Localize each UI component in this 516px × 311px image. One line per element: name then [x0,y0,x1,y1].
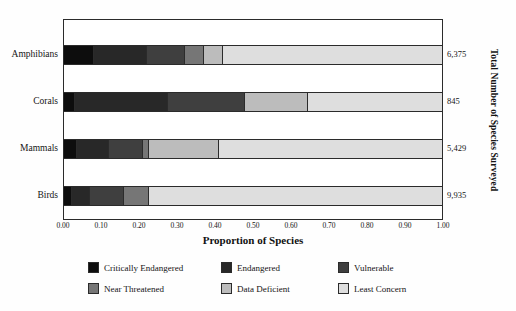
x-tick-label: 0.40 [208,221,221,231]
legend-item[interactable]: Near Threatened [88,283,221,294]
bar-segment[interactable] [72,187,91,205]
bar-segment[interactable] [185,46,204,64]
x-tick-label: 0.50 [246,221,259,231]
legend-label: Critically Endangered [104,263,183,273]
row-total-label: 845 [447,96,460,106]
legend-label: Least Concern [354,284,406,294]
legend-swatch-icon [221,262,232,273]
bar-segment[interactable] [109,140,143,158]
bar-segment[interactable] [75,93,168,111]
legend-swatch-icon [88,262,99,273]
legend-item[interactable]: Data Deficient [221,283,338,294]
x-tick-label: 0.10 [94,221,107,231]
bar-segment[interactable] [94,46,147,64]
plot-area [63,19,443,220]
row-total-label: 5,429 [447,143,466,153]
bar-segment[interactable] [124,187,149,205]
x-tick-label: 0.60 [284,221,297,231]
bar-segment[interactable] [223,46,442,64]
legend-swatch-icon [338,283,349,294]
chart-legend: Critically EndangeredEndangeredVulnerabl… [88,257,438,299]
x-tick-label: 0.20 [132,221,145,231]
x-axis-ticks: 0.000.100.200.300.400.500.600.700.800.90… [63,221,443,233]
x-tick-label: 0.80 [360,221,373,231]
x-tick-label: 0.00 [56,221,69,231]
legend-label: Near Threatened [104,284,164,294]
legend-swatch-icon [338,262,349,273]
legend-swatch-icon [221,283,232,294]
bar-segment[interactable] [64,140,77,158]
bar-segment[interactable] [77,140,109,158]
legend-swatch-icon [88,283,99,294]
bar-segment[interactable] [147,46,185,64]
row-total-label: 6,375 [447,49,466,59]
bar-row[interactable] [64,186,442,206]
bar-segment[interactable] [245,93,307,111]
bar-row[interactable] [64,45,442,65]
legend-label: Vulnerable [354,263,393,273]
bar-segment[interactable] [168,93,245,111]
bar-segment[interactable] [308,93,442,111]
bar-row[interactable] [64,139,442,159]
row-total-label: 9,935 [447,190,466,200]
y-axis-title-text: Total Number of Species Surveyed [489,49,499,192]
bar-segment[interactable] [149,140,219,158]
category-label: Amphibians [0,49,58,59]
legend-label: Endangered [237,263,280,273]
bar-segment[interactable] [64,187,72,205]
legend-item[interactable]: Vulnerable [338,262,438,273]
x-tick-label: 0.70 [322,221,335,231]
category-label: Mammals [0,143,58,153]
legend-item[interactable]: Endangered [221,262,338,273]
row-totals: 6,3758455,4299,935 [447,19,487,220]
bar-segment[interactable] [149,187,442,205]
category-label: Corals [0,96,58,106]
bar-segment[interactable] [90,187,124,205]
x-tick-label: 0.90 [398,221,411,231]
bar-row[interactable] [64,92,442,112]
bar-segment[interactable] [64,93,75,111]
category-axis-labels: AmphibiansCoralsMammalsBirds [0,19,58,220]
chart-figure: AmphibiansCoralsMammalsBirds 6,3758455,4… [0,0,516,311]
x-tick-label: 1.00 [436,221,449,231]
bar-segment[interactable] [204,46,223,64]
legend-item[interactable]: Critically Endangered [88,262,221,273]
legend-item[interactable]: Least Concern [338,283,438,294]
bar-segment[interactable] [219,140,442,158]
x-tick-label: 0.30 [170,221,183,231]
bar-segment[interactable] [64,46,94,64]
legend-label: Data Deficient [237,284,290,294]
category-label: Birds [0,190,58,200]
x-axis-title: Proportion of Species [63,234,443,246]
y-axis-title: Total Number of Species Surveyed [486,14,502,226]
